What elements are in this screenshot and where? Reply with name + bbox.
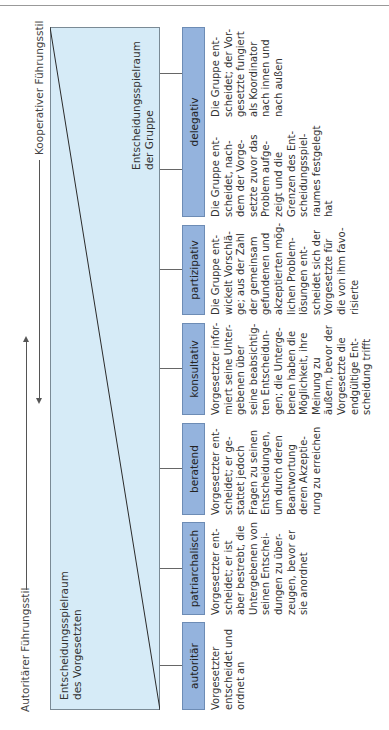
cooperative-arrow-line bbox=[39, 160, 40, 398]
cooperative-style-label: Kooperativer Führungsstil bbox=[33, 21, 45, 155]
connector-partizipativ bbox=[160, 269, 182, 270]
description-delegativ-a: Die Gruppe ent- scheidet, nach- dem der … bbox=[210, 120, 336, 217]
connector-konsultativ bbox=[160, 368, 182, 369]
description-delegativ-b: Die Gruppe ent- scheidet; der Vor- geset… bbox=[210, 20, 286, 117]
description-autoritaer: Vorgesetzter entscheidet und ordnet an bbox=[210, 618, 248, 710]
connector-delegativ-a bbox=[160, 169, 182, 170]
style-label-delegativ: delegativ bbox=[182, 27, 205, 217]
style-label-partizipativ: partizipativ bbox=[182, 225, 205, 315]
style-label-beratend: beratend bbox=[182, 423, 205, 515]
description-konsultativ: Vorgesetzter infor- miert seine Unter- g… bbox=[210, 318, 374, 415]
description-beratend: Vorgesetzter ent- scheidet; er ge- statt… bbox=[210, 418, 323, 515]
arrow-left-icon bbox=[36, 398, 42, 404]
connector-patriarchalisch bbox=[160, 568, 182, 569]
connector-autoritaer bbox=[160, 665, 182, 666]
description-patriarchalisch: Vorgesetzter ent- scheidet; er ist aber … bbox=[210, 518, 311, 615]
arrow-right-icon bbox=[23, 336, 29, 342]
connector-beratend bbox=[160, 468, 182, 469]
leadership-continuum-diagram: Autoritärer Führungsstil Kooperativer Fü… bbox=[0, 0, 389, 730]
style-label-autoritaer: autoritär bbox=[182, 622, 205, 710]
autocratic-style-label: Autoritärer Führungsstil bbox=[19, 588, 31, 712]
description-partizipativ: Die Gruppe ent- wickelt Vorschlä- ge; au… bbox=[210, 218, 361, 315]
group-decision-space-label: Entscheidungsspielraum der Gruppe bbox=[130, 41, 156, 170]
superior-decision-space-label: Entscheidungsspielraum des Vorgesetzten bbox=[58, 571, 84, 700]
connector-delegativ-b bbox=[160, 73, 182, 74]
top-rule bbox=[0, 5, 389, 6]
style-label-konsultativ: konsultativ bbox=[182, 323, 205, 415]
style-label-patriarchalisch: patriarchalisch bbox=[182, 522, 205, 615]
autocratic-arrow-line bbox=[26, 340, 27, 590]
